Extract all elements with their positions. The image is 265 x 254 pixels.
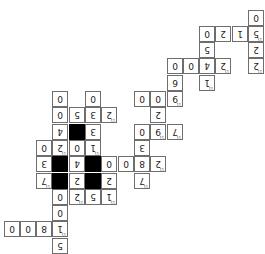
cell-digit: 0 — [135, 126, 149, 137]
grid-cell[interactable]: 3 — [85, 107, 101, 123]
grid-cell[interactable]: 211 — [101, 107, 117, 123]
grid-cell[interactable]: 0 — [183, 58, 199, 74]
grid-cell[interactable]: 0 — [85, 91, 101, 107]
grid-cell[interactable]: 3 — [36, 156, 52, 172]
clue-number: 11 — [225, 69, 229, 73]
cell-digit: 0 — [53, 191, 67, 202]
grid-cell[interactable]: 0 — [118, 156, 134, 172]
grid-cell[interactable]: 0 — [4, 221, 20, 237]
cell-content: 6 — [168, 76, 182, 90]
cell-content: 0 — [102, 157, 116, 171]
cell-digit: 4 — [70, 158, 84, 169]
grid-cell[interactable]: 2 — [69, 173, 85, 189]
cell-digit: 0 — [184, 60, 198, 71]
grid-cell[interactable]: 5 — [85, 189, 101, 205]
grid-cell[interactable]: 0 — [248, 10, 264, 26]
cell-content: 0 — [53, 92, 67, 106]
cell-content: 0 — [53, 206, 67, 220]
grid-cell[interactable]: 0 — [134, 91, 150, 107]
clue-number: 11 — [160, 167, 164, 171]
cell-digit: 3 — [86, 109, 100, 120]
cell-content: 1 — [233, 27, 247, 41]
cell-digit: 3 — [135, 142, 149, 153]
grid-cell[interactable]: 2 — [215, 26, 231, 42]
grid-cell[interactable]: 0 — [167, 58, 183, 74]
grid-cell[interactable]: 211 — [248, 58, 264, 74]
grid-cell[interactable]: 0 — [69, 140, 85, 156]
grid-cell[interactable]: 5 — [52, 238, 68, 254]
clue-number: 11 — [258, 37, 262, 41]
grid-cell[interactable]: 3 — [85, 124, 101, 140]
cell-content: 4 — [70, 157, 84, 171]
clue-number: 11 — [176, 102, 180, 106]
clue-number: 11 — [111, 118, 115, 122]
cell-content: 211 — [70, 190, 84, 204]
grid-cell[interactable]: 3 — [134, 140, 150, 156]
clue-number: 11 — [62, 151, 66, 155]
grid-cell[interactable]: 8 — [134, 156, 150, 172]
grid-cell[interactable]: 2 — [101, 173, 117, 189]
cell-digit: 2 — [102, 175, 116, 186]
grid-cell[interactable]: 111 — [85, 140, 101, 156]
grid-cell[interactable]: 6 — [167, 75, 183, 91]
grid-cell[interactable]: 4 — [52, 124, 68, 140]
grid-cell[interactable]: 0 — [20, 221, 36, 237]
cell-digit: 3 — [37, 158, 51, 169]
grid-cell[interactable]: 211 — [150, 156, 166, 172]
grid-cell[interactable]: 111 — [101, 189, 117, 205]
cell-content: 111 — [86, 141, 100, 155]
grid-cell[interactable]: 711 — [167, 124, 183, 140]
cell-content: 0 — [151, 92, 165, 106]
cell-digit: 0 — [5, 223, 19, 234]
cell-content: 0 — [168, 59, 182, 73]
grid-cell[interactable]: 0 — [52, 107, 68, 123]
grid-cell[interactable]: 1 — [232, 26, 248, 42]
grid-cell[interactable]: 0 — [52, 205, 68, 221]
cell-content: 911 — [151, 125, 165, 139]
grid-cell[interactable]: 2 — [150, 107, 166, 123]
cell-digit: 8 — [135, 158, 149, 169]
cell-content: 711 — [37, 174, 51, 188]
block-cell — [85, 156, 101, 172]
grid-cell[interactable]: 111 — [199, 75, 215, 91]
grid-cell[interactable]: 0 — [101, 156, 117, 172]
grid-cell[interactable]: 0 — [134, 124, 150, 140]
cell-digit: 2 — [216, 28, 230, 39]
cell-content: 2 — [70, 174, 84, 188]
grid-cell[interactable]: 0 — [150, 91, 166, 107]
cell-content: 2 — [102, 174, 116, 188]
cell-digit: 4 — [200, 60, 214, 71]
cell-content: 5 — [70, 108, 84, 122]
grid-cell[interactable]: 711 — [36, 173, 52, 189]
cell-digit: 0 — [21, 223, 35, 234]
grid-cell[interactable]: 0 — [52, 189, 68, 205]
cell-digit: 0 — [249, 12, 263, 23]
block-cell — [69, 124, 85, 140]
clue-number: 11 — [176, 135, 180, 139]
grid-cell[interactable]: 5 — [69, 107, 85, 123]
grid-cell[interactable]: 211 — [52, 140, 68, 156]
grid-cell[interactable]: 4 — [69, 156, 85, 172]
grid-cell[interactable]: 111 — [52, 221, 68, 237]
grid-cell[interactable]: 211 — [69, 189, 85, 205]
cell-content: 5 — [86, 190, 100, 204]
cell-content: 2 — [216, 27, 230, 41]
grid-cell[interactable]: 8 — [36, 221, 52, 237]
cell-content: 0 — [5, 222, 19, 236]
cell-content: 111 — [53, 222, 67, 236]
grid-cell[interactable]: 711 — [134, 173, 150, 189]
grid-cell[interactable]: 2 — [248, 42, 264, 58]
grid-cell[interactable]: 5 — [199, 42, 215, 58]
cell-digit: 8 — [37, 223, 51, 234]
grid-cell[interactable]: 211 — [215, 58, 231, 74]
grid-cell[interactable]: 0 — [52, 91, 68, 107]
grid-cell[interactable]: 511 — [248, 26, 264, 42]
cell-digit: 0 — [102, 158, 116, 169]
grid-cell[interactable]: 911 — [150, 124, 166, 140]
cell-content: 0 — [119, 157, 133, 171]
grid-cell[interactable]: 4 — [199, 58, 215, 74]
grid-cell[interactable]: 0 — [36, 140, 52, 156]
grid-cell[interactable]: 0 — [199, 26, 215, 42]
grid-cell[interactable]: 911 — [167, 91, 183, 107]
cell-content: 711 — [168, 125, 182, 139]
